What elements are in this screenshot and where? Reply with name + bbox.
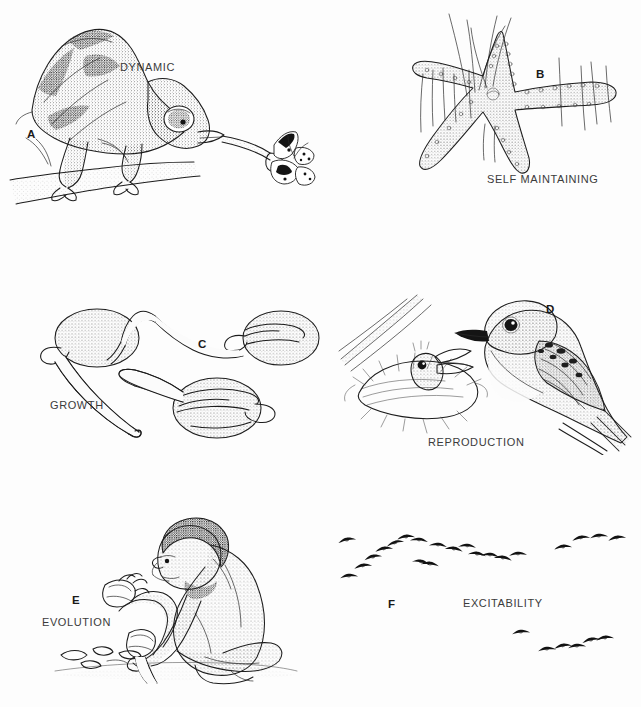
panel-d-bird-nest: [335, 285, 635, 455]
adult-bird: [455, 301, 631, 455]
chameleon-illustration: [8, 12, 328, 252]
caption-growth: GROWTH: [50, 399, 104, 411]
panel-letter-a: A: [27, 128, 35, 140]
panel-letter-e: E: [72, 594, 80, 606]
panel-e-hominid: [45, 505, 315, 695]
butterfly: [271, 132, 315, 186]
flock-upper-right: [554, 533, 626, 550]
caption-dynamic: DYNAMIC: [120, 61, 175, 73]
caption-reproduction: REPRODUCTION: [428, 436, 524, 448]
panel-letter-b: B: [536, 68, 544, 80]
germinating-seed-illustration: [35, 290, 325, 460]
hominid-toolmaker-illustration: [45, 505, 315, 695]
panel-a-chameleon: [8, 12, 328, 252]
starfish-body: [413, 32, 616, 174]
caption-self-maintaining: SELF MAINTAINING: [487, 173, 598, 185]
panel-letter-f: F: [388, 598, 395, 610]
panel-letter-d: D: [546, 303, 554, 315]
flock-main: [338, 533, 527, 578]
caption-excitability: EXCITABILITY: [463, 597, 543, 609]
caption-evolution: EVOLUTION: [42, 616, 111, 628]
starfish-illustration: [375, 8, 637, 228]
stone-flakes: [61, 647, 141, 669]
chick: [411, 341, 473, 390]
panel-b-starfish: [375, 8, 637, 228]
flock-lower-right: [512, 629, 614, 652]
life-characteristics-figure: DYNAMIC A: [0, 0, 641, 707]
panel-c-seeds: [35, 290, 325, 460]
bird-nest-illustration: [335, 285, 635, 455]
seed-lower-middle: [119, 369, 275, 438]
panel-letter-c: C: [198, 338, 206, 350]
